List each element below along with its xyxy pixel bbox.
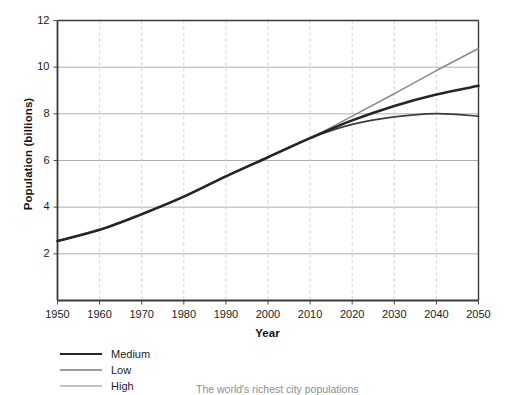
x-tick-label: 1960 [77,309,123,320]
legend-item-low[interactable]: Low [60,362,260,378]
x-tick-label: 1970 [119,309,165,320]
y-tick-label: 2 [16,248,50,259]
legend-line-swatch [60,364,102,376]
y-tick-label: 4 [16,201,50,212]
x-tick-label: 2020 [329,309,375,320]
chart-plot-area: Population (billions) Year 24681012 1950… [0,0,515,330]
y-tick-label: 6 [16,155,50,166]
x-tick-label: 1950 [35,309,81,320]
x-tick-label: 1990 [203,309,249,320]
y-tick-label: 8 [16,108,50,119]
x-tick-label: 2010 [287,309,333,320]
legend-line-swatch [60,348,102,360]
x-tick-label: 2040 [413,309,459,320]
y-tick-label: 12 [16,15,50,26]
legend-item-label: High [102,380,134,392]
y-tick-label: 10 [16,61,50,72]
legend-item-label: Low [102,364,131,376]
figure-caption: The world's richest city populations [196,383,496,395]
legend-item-label: Medium [102,348,150,360]
legend-item-medium[interactable]: Medium [60,346,260,362]
axis-tick-marks [54,21,479,305]
x-tick-label: 1980 [161,309,207,320]
x-tick-label: 2050 [456,309,502,320]
line-chart-svg [0,0,515,330]
x-tick-label: 2030 [371,309,417,320]
legend-line-swatch [60,380,102,392]
x-axis-title: Year [57,327,478,339]
population-projection-figure: Population (billions) Year 24681012 1950… [0,0,515,395]
x-tick-label: 2000 [245,309,291,320]
